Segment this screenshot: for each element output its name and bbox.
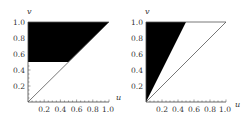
right-plot: 0.2 0.4 0.6 0.8 1.0 0.2 0.4 0.6 0.8 1.0 … (131, 7, 240, 114)
left-xtick-3: 0.8 (87, 105, 99, 114)
right-xtick-4: 1.0 (219, 105, 231, 114)
left-xtick-0: 0.2 (38, 105, 50, 114)
left-xtick-4: 1.0 (102, 105, 114, 114)
left-xlabel: u (116, 93, 121, 102)
right-xtick-1: 0.4 (172, 105, 184, 114)
left-ylabel: v (27, 7, 32, 16)
right-ytick-0: 0.2 (131, 82, 143, 91)
right-ytick-4: 1.0 (131, 18, 143, 27)
left-ytick-2: 0.6 (13, 50, 25, 59)
left-ytick-0: 0.2 (13, 82, 25, 91)
left-plot: 0.2 0.4 0.6 0.8 1.0 0.2 0.4 0.6 0.8 1.0 … (13, 7, 121, 114)
right-xtick-2: 0.6 (188, 105, 200, 114)
right-ytick-3: 0.8 (131, 34, 143, 43)
left-xtick-2: 0.6 (71, 105, 83, 114)
right-xtick-3: 0.8 (204, 105, 216, 114)
right-ytick-2: 0.6 (131, 50, 143, 59)
left-ytick-4: 1.0 (13, 18, 25, 27)
left-shaded-region (28, 22, 109, 62)
figure: 0.2 0.4 0.6 0.8 1.0 0.2 0.4 0.6 0.8 1.0 … (0, 0, 251, 122)
right-shaded-region (146, 22, 186, 102)
right-xtick-0: 0.2 (156, 105, 168, 114)
right-ylabel: v (145, 7, 150, 16)
left-ytick-3: 0.8 (13, 34, 25, 43)
left-xtick-1: 0.4 (54, 105, 66, 114)
left-ytick-1: 0.4 (13, 66, 25, 75)
right-xlabel: u (235, 100, 240, 109)
right-ytick-1: 0.4 (131, 66, 143, 75)
